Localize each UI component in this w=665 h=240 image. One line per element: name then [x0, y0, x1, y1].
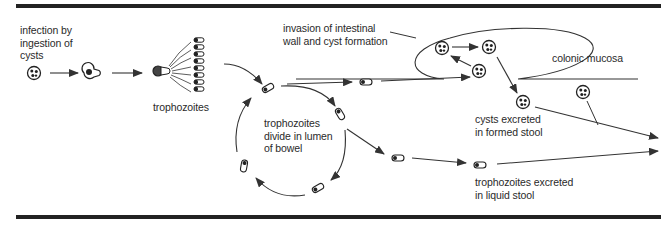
- arrow-icon: [451, 56, 471, 66]
- arrow-icon: [347, 129, 384, 154]
- cyst-icon: [436, 42, 449, 55]
- label-trophozoites-excreted: trophozoites excreted in liquid stool: [475, 176, 573, 201]
- invasion-pointer: [390, 32, 416, 38]
- cyst-icon: [517, 96, 530, 109]
- trophozoite-icon: [360, 79, 372, 85]
- arrow-icon: [412, 158, 466, 163]
- arrow-icon: [281, 86, 335, 106]
- trophozoite-column: [194, 38, 204, 91]
- trophozoite-icon: [474, 162, 486, 168]
- trophozoite-icon: [334, 107, 345, 120]
- arrow-icon: [287, 82, 352, 84]
- trophozoite-icon: [392, 155, 404, 161]
- trophozoite-icon: [311, 182, 324, 193]
- label-invasion: invasion of intestinal wall and cyst for…: [283, 22, 388, 47]
- arrow-icon: [236, 98, 251, 152]
- arrow-icon: [497, 151, 658, 164]
- label-infection: infection by ingestion of cysts: [20, 24, 73, 62]
- label-cysts-excreted: cysts excreted in formed stool: [475, 113, 542, 138]
- cyst-icon: [483, 41, 496, 54]
- excysting-amoeba-icon: [153, 66, 170, 76]
- cyst-icon: [28, 67, 41, 80]
- arrow-icon: [256, 178, 305, 196]
- excysting-amoeba-icon: [82, 63, 100, 79]
- cyst-icon: [577, 86, 590, 99]
- trophozoite-icon: [261, 82, 274, 93]
- cyst-icon: [473, 65, 486, 78]
- arrow-icon: [331, 130, 345, 180]
- trophozoite-icon: [240, 160, 248, 173]
- label-colonic-mucosa: colonic mucosa: [552, 52, 623, 65]
- arrow-icon: [224, 64, 262, 84]
- division-rays: [169, 42, 191, 92]
- label-trophozoites: trophozoites: [153, 101, 209, 114]
- label-divide-in-lumen: trophozoites divide in lumen of bowel: [264, 117, 333, 155]
- arrow-icon: [497, 57, 517, 93]
